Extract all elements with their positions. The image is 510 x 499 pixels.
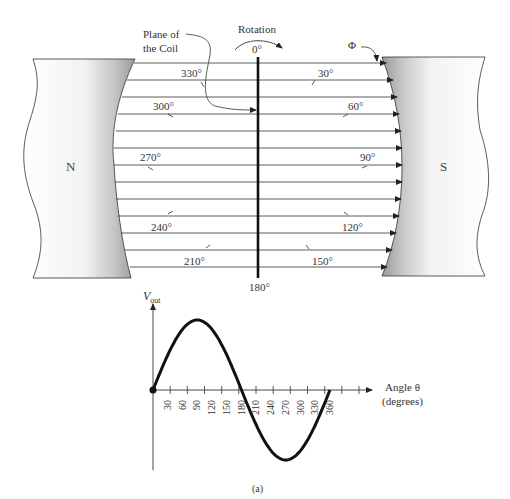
angle-240-label: 240° [151,222,172,233]
figure-caption: (a) [252,484,263,494]
x-axis-label: Angle θ (degrees) [382,382,423,407]
origin-point [150,387,157,394]
north-pole-label: N [66,160,75,173]
rotation-label: Rotation [238,24,276,35]
x-tick-label: 30 [163,400,173,418]
x-tick-label: 360 [325,400,335,418]
angle-180-label: 180° [249,282,270,293]
flux-pointer [361,47,377,61]
x-tick-label: 90 [192,400,202,418]
angle-330-label: 330° [181,68,202,79]
plane-of-coil-label: Plane of the Coil [143,29,179,54]
angle-120-label: 120° [342,222,363,233]
angle-210-label: 210° [184,256,205,267]
x-tick-label: 180 [237,400,247,418]
angle-60-label: 60° [348,101,363,112]
angle-30-label: 30° [318,68,333,79]
x-tick-label: 120 [207,400,217,418]
x-tick-label: 210 [251,400,261,418]
angle-150-label: 150° [312,256,333,267]
x-axis-label-line1: Angle θ [382,382,423,393]
x-tick-label: 300 [296,400,306,418]
angle-90-label: 90° [360,152,375,163]
generator-diagram [0,0,510,499]
y-axis-label: Vout [143,290,161,305]
x-tick-label: 150 [222,400,232,418]
angle-270-label: 270° [140,152,161,163]
x-tick-label: 270 [281,400,291,418]
plane-of-coil-label-line2: the Coil [143,43,179,54]
x-tick-label: 60 [178,400,188,418]
angle-0-label: 0° [252,44,262,55]
x-axis-label-line2: (degrees) [382,396,423,407]
south-pole-magnet [382,57,489,276]
flux-label: Φ [348,40,356,51]
north-pole-magnet [24,59,135,278]
south-pole-label: S [440,160,447,173]
x-tick-label: 330 [310,400,320,418]
x-tick-label: 240 [266,400,276,418]
plane-of-coil-label-line1: Plane of [143,29,179,40]
y-axis-label-sub: out [150,296,160,305]
angle-300-label: 300° [153,101,174,112]
